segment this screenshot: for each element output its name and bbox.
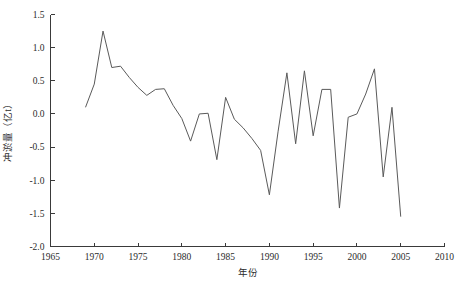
x-tick-label: 2000: [347, 252, 366, 262]
axis-spines: [51, 15, 445, 247]
y-tick-label: 0.0: [33, 109, 45, 119]
chart-figure: -2.0-1.5-1.0-0.50.00.51.01.5196519701975…: [0, 0, 460, 289]
data-series-line: [86, 31, 401, 217]
x-axis-title: 年份: [238, 267, 258, 278]
line-chart: -2.0-1.5-1.0-0.50.00.51.01.5196519701975…: [0, 0, 460, 289]
y-tick-label: 0.5: [33, 76, 45, 86]
y-tick-label: -0.5: [29, 142, 44, 152]
y-tick-label: -1.5: [29, 209, 44, 219]
y-tick-label: 1.0: [33, 43, 45, 53]
x-tick-label: 1965: [41, 252, 60, 262]
x-tick-label: 1985: [216, 252, 235, 262]
y-tick-label: -1.0: [29, 176, 44, 186]
x-tick-label: 2005: [391, 252, 410, 262]
x-tick-label: 1975: [129, 252, 148, 262]
x-tick-label: 1980: [172, 252, 191, 262]
y-tick-label: -2.0: [29, 242, 44, 252]
y-tick-label: 1.5: [33, 10, 45, 20]
y-axis-title: 冲淤量（亿t）: [2, 99, 13, 162]
x-tick-label: 2010: [435, 252, 454, 262]
x-tick-label: 1990: [260, 252, 279, 262]
x-tick-label: 1995: [304, 252, 323, 262]
x-tick-label: 1970: [85, 252, 104, 262]
